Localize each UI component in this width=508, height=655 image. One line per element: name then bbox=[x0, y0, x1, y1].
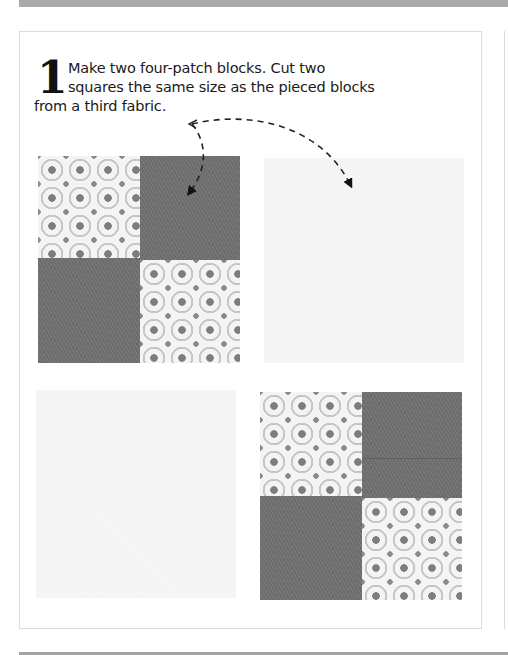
step-text-line-1: Make two four-patch blocks. Cut two bbox=[34, 59, 474, 78]
four-patch-block-bottom-right bbox=[260, 392, 462, 600]
step-text-line-3: from a third fabric. bbox=[34, 97, 474, 116]
solid-patch bbox=[260, 496, 362, 600]
print-patch bbox=[260, 392, 362, 496]
solid-patch bbox=[38, 258, 140, 363]
plain-square-top-right bbox=[264, 158, 464, 363]
adjacent-panel-edge bbox=[504, 31, 505, 629]
plain-square-bottom-left bbox=[36, 390, 236, 598]
print-patch bbox=[362, 498, 462, 600]
solid-patch bbox=[140, 156, 240, 260]
print-patch bbox=[38, 156, 140, 258]
four-patch-block-top-left bbox=[38, 156, 240, 363]
step-text-line-2: squares the same size as the pieced bloc… bbox=[34, 78, 474, 97]
page-top-bar bbox=[19, 0, 508, 7]
step-instruction-text: Make two four-patch blocks. Cut two squa… bbox=[34, 59, 474, 116]
solid-patch bbox=[362, 392, 462, 498]
print-patch bbox=[140, 260, 240, 363]
patch-seam bbox=[362, 458, 462, 459]
